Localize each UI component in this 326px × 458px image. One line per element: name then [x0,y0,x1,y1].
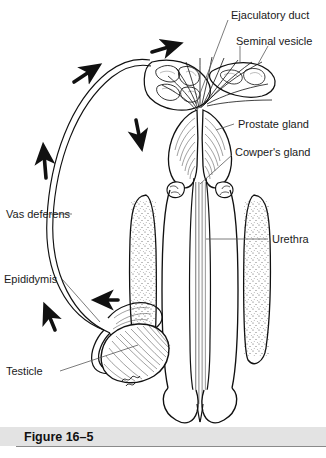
cowpers-gland-right [216,182,233,198]
label-ejaculatory-duct: Ejaculatory duct [231,9,309,21]
label-cowpers-gland: Cowper's gland [235,146,310,158]
figure-caption-text: Figure 16–5 [24,430,94,444]
label-seminal-vesicle: Seminal vesicle [236,35,312,47]
figure-caption-bar: Figure 16–5 [0,427,326,447]
label-prostate-gland: Prostate gland [238,118,309,130]
figure-container: Ejaculatory duct Seminal vesicle Prostat… [0,0,326,458]
corpus-cavernosum-right [244,195,271,364]
cowpers-gland-left [167,182,184,198]
arrow-vas-ascending [44,154,46,178]
anatomy-illustration: Ejaculatory duct Seminal vesicle Prostat… [0,0,326,458]
label-urethra: Urethra [272,233,310,245]
label-testicle: Testicle [6,365,43,377]
label-epididymis: Epididymis [4,273,58,285]
label-vas-deferens: Vas deferens [6,208,71,220]
